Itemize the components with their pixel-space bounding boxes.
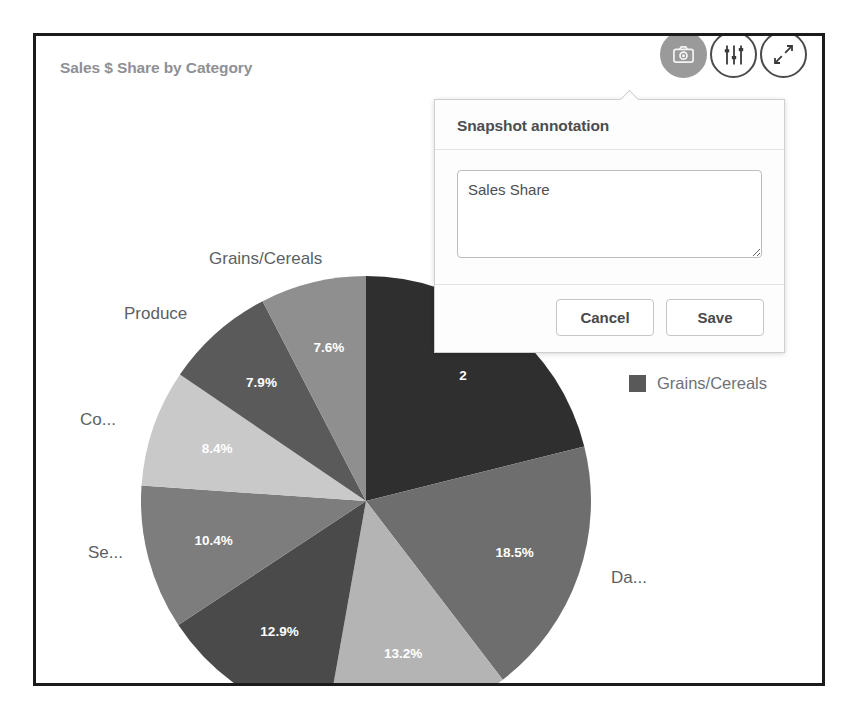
popover-body <box>435 150 784 285</box>
expand-arrows-icon <box>773 44 794 65</box>
pie-category-label: Co... <box>80 410 116 429</box>
chart-toolbar <box>660 33 807 78</box>
snapshot-annotation-popover: Snapshot annotation Cancel Save <box>434 99 785 353</box>
popover-header: Snapshot annotation <box>435 100 784 150</box>
popover-footer: Cancel Save <box>435 285 784 352</box>
pie-category-label: Produce <box>124 304 187 323</box>
fullscreen-button[interactable] <box>760 33 807 78</box>
pie-slice-percent: 7.6% <box>313 340 344 355</box>
chart-legend: Grains/Cereals <box>629 374 767 402</box>
annotation-input[interactable] <box>457 170 762 258</box>
pie-slice-percent: 8.4% <box>202 441 233 456</box>
pie-slice-percent: 18.5% <box>496 545 534 560</box>
pie-slice-percent: 13.2% <box>384 646 422 661</box>
settings-button[interactable] <box>710 33 757 78</box>
pie-category-label: Da... <box>611 568 647 587</box>
pie-category-label: Grains/Cereals <box>209 249 322 268</box>
pie-slice-percent: 12.9% <box>260 624 298 639</box>
save-button[interactable]: Save <box>666 299 764 336</box>
legend-item-grains-cereals[interactable]: Grains/Cereals <box>629 374 767 393</box>
popover-title: Snapshot annotation <box>457 117 762 135</box>
cancel-button[interactable]: Cancel <box>556 299 654 336</box>
legend-swatch <box>629 375 646 392</box>
pie-slice-percent: 10.4% <box>195 533 233 548</box>
pie-slice-percent: 2 <box>459 368 467 383</box>
pie-category-label: Se... <box>88 543 123 562</box>
pie-slice-percent: 7.9% <box>246 375 277 390</box>
snapshot-button[interactable] <box>660 33 707 78</box>
sliders-icon <box>723 44 745 66</box>
camera-icon <box>673 46 694 63</box>
popover-arrow <box>619 90 639 100</box>
legend-item-label: Grains/Cereals <box>657 374 767 393</box>
